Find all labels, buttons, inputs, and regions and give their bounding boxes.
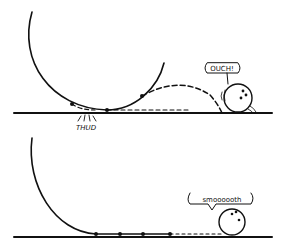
ball-hole — [245, 94, 248, 97]
thud-label: THUD — [76, 124, 97, 132]
ball-hole — [235, 211, 238, 214]
bottom-position-dot — [118, 232, 122, 236]
top-position-dot — [140, 94, 144, 98]
top-panel: THUD OUCH! — [14, 12, 272, 132]
ball-hole — [231, 213, 234, 216]
diagram: THUD OUCH! smoooooth — [0, 0, 286, 249]
top-position-dot — [105, 108, 109, 112]
top-ball — [224, 84, 252, 112]
bottom-panel: smoooooth — [14, 138, 272, 237]
impact-lines — [78, 115, 96, 121]
bottom-position-dot — [168, 232, 172, 236]
wobble-left-icon — [221, 90, 225, 101]
bottom-ramp-arc — [31, 138, 170, 234]
ouch-text: OUCH! — [210, 65, 234, 73]
ouch-bubble-tail — [227, 73, 228, 84]
ball-hole — [242, 90, 245, 93]
top-position-dot — [70, 102, 74, 106]
bottom-position-dot — [94, 232, 98, 236]
ball-hole — [240, 97, 243, 100]
smooth-text: smoooooth — [202, 196, 241, 204]
top-bounce-arc — [142, 85, 222, 113]
bottom-position-dot — [141, 232, 145, 236]
ball-hole — [238, 219, 241, 222]
